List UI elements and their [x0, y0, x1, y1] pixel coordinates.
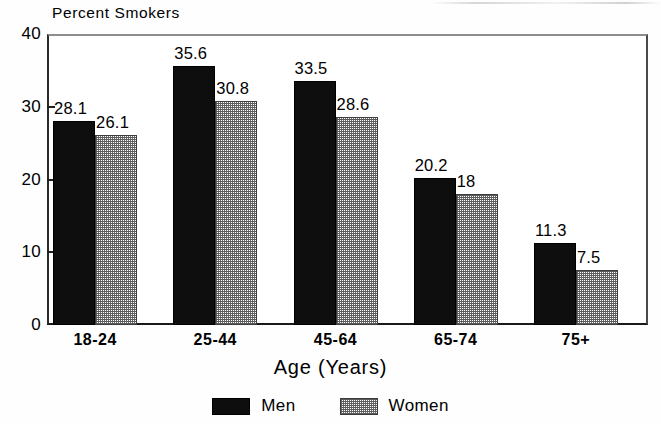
- bar-value-label: 11.3: [535, 221, 567, 240]
- y-tick-label: 30: [5, 97, 41, 117]
- chart-figure: Percent Smokers 010203040 28.126.135.630…: [0, 0, 661, 424]
- y-axis: 010203040: [0, 34, 41, 325]
- bar-value-label: 30.8: [216, 79, 249, 98]
- bar-value-label: 28.6: [337, 95, 370, 114]
- chart-legend: Men Women: [0, 396, 661, 416]
- bar-women-25-44: [215, 101, 257, 325]
- legend-label-men: Men: [261, 396, 295, 416]
- legend-item-women: Women: [340, 396, 449, 416]
- legend-label-women: Women: [389, 396, 449, 416]
- x-category-label-25-44: 25-44: [194, 331, 237, 349]
- x-category-label-65-74: 65-74: [434, 331, 477, 349]
- bar-value-label: 35.6: [174, 44, 207, 63]
- bar-value-label: 28.1: [54, 99, 87, 118]
- bar-women-75+: [576, 270, 618, 325]
- bar-women-18-24: [95, 135, 137, 325]
- bar-value-label: 7.5: [577, 248, 601, 267]
- bar-women-65-74: [456, 194, 498, 325]
- y-tick-label: 40: [5, 24, 41, 44]
- legend-item-men: Men: [212, 396, 295, 416]
- bar-value-label: 18: [457, 172, 476, 191]
- bar-men-75+: [534, 243, 576, 325]
- bar-value-label: 33.5: [295, 59, 328, 78]
- bar-value-label: 20.2: [415, 156, 448, 175]
- bar-women-45-64: [336, 117, 378, 325]
- legend-swatch-women-icon: [340, 398, 378, 415]
- bar-men-18-24: [53, 121, 95, 325]
- bar-men-65-74: [414, 178, 456, 325]
- legend-swatch-men-icon: [212, 398, 250, 415]
- bar-men-25-44: [173, 66, 215, 325]
- x-category-label-18-24: 18-24: [73, 331, 116, 349]
- y-tick-label: 10: [5, 242, 41, 262]
- x-category-label-45-64: 45-64: [314, 331, 357, 349]
- chart-title: Percent Smokers: [52, 4, 180, 22]
- bar-men-45-64: [294, 81, 336, 325]
- scan-artifact: [430, 2, 661, 4]
- x-axis-title: Age (Years): [0, 356, 661, 379]
- y-tick-label: 0: [5, 315, 41, 335]
- x-category-label-75+: 75+: [562, 331, 591, 349]
- bar-value-label: 26.1: [96, 113, 129, 132]
- y-tick-label: 20: [5, 170, 41, 190]
